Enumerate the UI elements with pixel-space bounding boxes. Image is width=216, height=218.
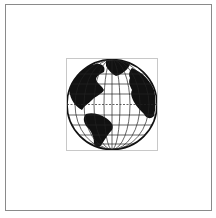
selection-box[interactable]	[66, 58, 158, 151]
